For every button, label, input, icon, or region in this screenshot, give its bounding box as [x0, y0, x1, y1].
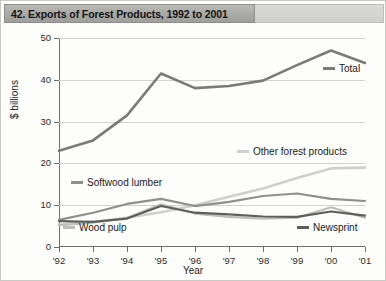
newsprint-line-swatch [297, 226, 309, 229]
series-label-other-forest-products: Other forest products [237, 146, 347, 157]
total-line-swatch [323, 67, 335, 70]
series-line-total [59, 51, 365, 151]
x-tick-label: '97 [216, 255, 242, 266]
y-tick-label: 0 [21, 241, 51, 252]
y-tick-label: 30 [21, 116, 51, 127]
woodpulp-line-swatch [63, 226, 75, 229]
series-label-total: Total [323, 63, 360, 74]
x-tick [263, 247, 264, 252]
series-lines [59, 38, 365, 247]
series-label-newsprint-text: Newsprint [313, 222, 357, 233]
x-tick [127, 247, 128, 252]
plot-area: 01020304050 '92'93'94'95'96'97'98'99'00'… [59, 38, 365, 247]
x-tick [297, 247, 298, 252]
x-tick [365, 247, 366, 252]
softwood-line-swatch [71, 181, 83, 184]
page-title: 42. Exports of Forest Products, 1992 to … [5, 8, 228, 20]
x-tick [59, 247, 60, 252]
y-axis-label: $ billions [9, 80, 20, 119]
figure-panel: 42. Exports of Forest Products, 1992 to … [0, 0, 386, 281]
y-tick-label: 50 [21, 32, 51, 43]
series-label-other-text: Other forest products [253, 146, 347, 157]
x-tick-label: '98 [250, 255, 276, 266]
series-label-total-text: Total [339, 63, 360, 74]
x-tick-label: '94 [114, 255, 140, 266]
series-label-softwood-text: Softwood lumber [87, 177, 162, 188]
series-label-wood-pulp: Wood pulp [63, 222, 127, 233]
x-tick-label: '00 [318, 255, 344, 266]
x-tick-label: '96 [182, 255, 208, 266]
y-tick-label: 40 [21, 74, 51, 85]
other-line-swatch [237, 150, 249, 153]
x-tick-label: '99 [284, 255, 310, 266]
x-tick [195, 247, 196, 252]
chart-title-bar: 42. Exports of Forest Products, 1992 to … [4, 4, 255, 23]
x-tick-label: '01 [352, 255, 378, 266]
x-tick [229, 247, 230, 252]
series-label-woodpulp-text: Wood pulp [79, 222, 127, 233]
y-tick-label: 10 [21, 199, 51, 210]
x-tick-label: '95 [148, 255, 174, 266]
x-tick-label: '93 [80, 255, 106, 266]
series-label-softwood-lumber: Softwood lumber [71, 177, 162, 188]
x-tick [93, 247, 94, 252]
x-tick-label: '92 [46, 255, 72, 266]
y-tick-label: 20 [21, 157, 51, 168]
x-tick [161, 247, 162, 252]
title-bar-filler [255, 4, 384, 23]
x-axis-label: Year [1, 265, 385, 276]
x-tick [331, 247, 332, 252]
series-label-newsprint: Newsprint [297, 222, 357, 233]
